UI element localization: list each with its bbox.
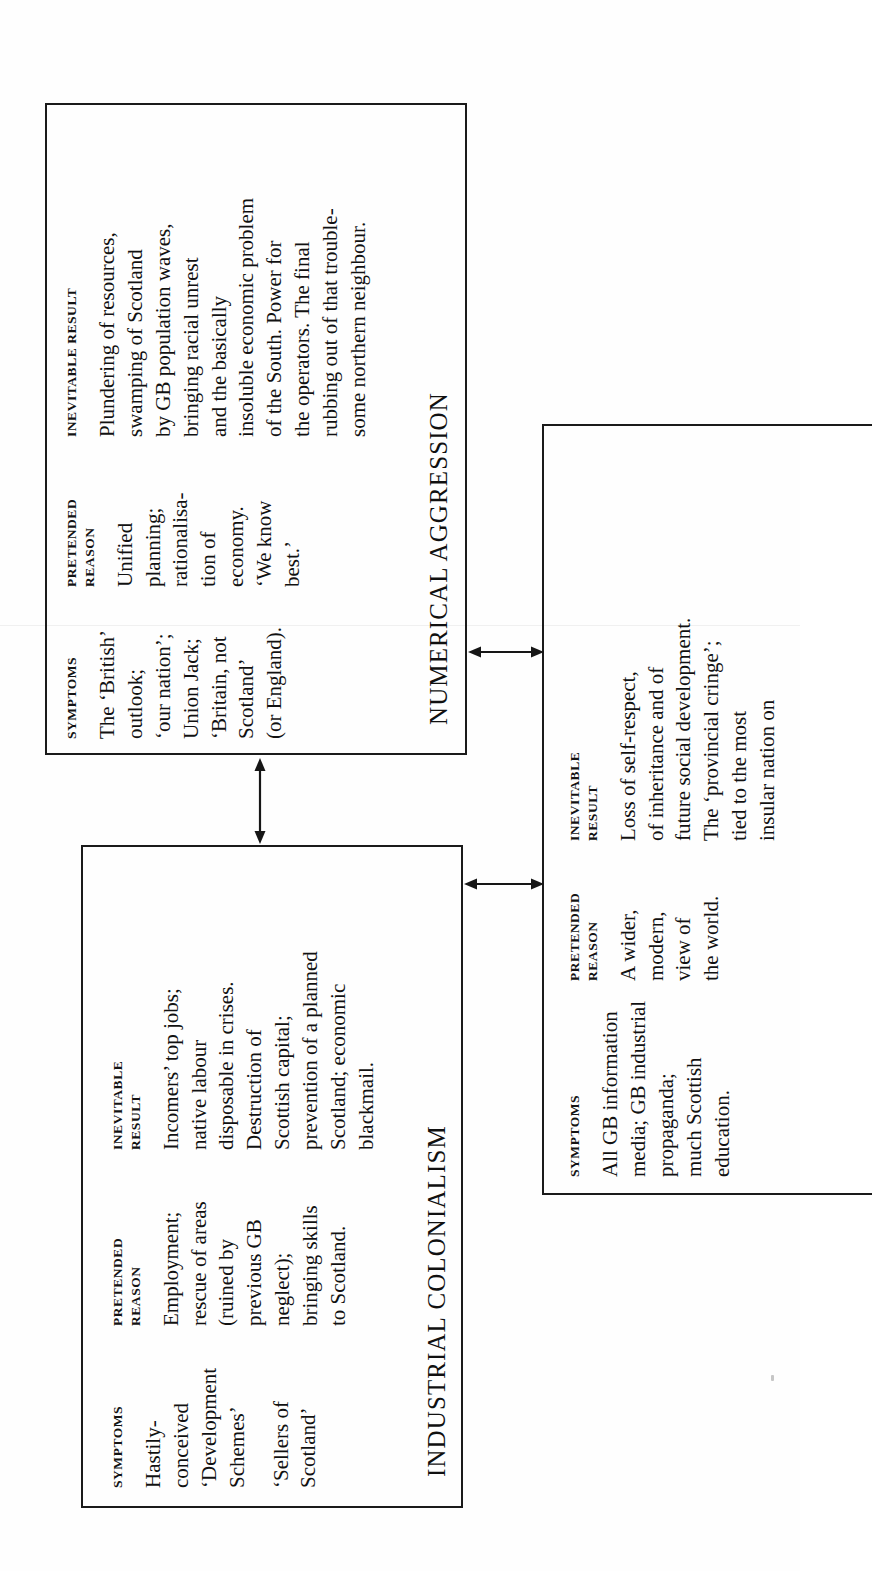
column-header-inevitable-result: INEVITABLE RESULT bbox=[63, 137, 81, 437]
column-symptoms: SYMPTOMS Hastily- conceived ‘Development… bbox=[109, 1326, 323, 1488]
column-header-pretended-reason: PRETENDED REASON bbox=[566, 841, 602, 981]
column-header-pretended-reason: PRETENDED REASON bbox=[109, 1150, 145, 1326]
column-pretended-reason: PRETENDED REASON Employment; rescue of a… bbox=[109, 1150, 353, 1326]
box-numerical-aggression: SYMPTOMS The ‘British’ outlook; ‘our nat… bbox=[45, 103, 467, 755]
column-symptoms: SYMPTOMS All GB information media; GB in… bbox=[566, 981, 736, 1177]
scan-speck bbox=[771, 1375, 774, 1381]
column-header-symptoms: SYMPTOMS bbox=[566, 981, 584, 1177]
connector-middle-to-right bbox=[464, 872, 544, 896]
connector-top-to-right bbox=[468, 640, 544, 664]
column-pretended-reason: PRETENDED REASON A wider, modern, view o… bbox=[566, 841, 726, 981]
column-body-symptoms: The ‘British’ outlook; ‘our nation’; Uni… bbox=[94, 587, 289, 739]
column-inevitable-result: INEVITABLE RESULT Incomers’ top jobs; na… bbox=[109, 880, 381, 1150]
column-body-inevitable-result: Loss of self-respect, of inheritance and… bbox=[615, 541, 783, 841]
column-pretended-reason: PRETENDED REASON Unified planning; ratio… bbox=[63, 437, 307, 587]
box-cultural-colonialism: SYMPTOMS All GB information media; GB in… bbox=[542, 424, 872, 1195]
column-body-symptoms: Hastily- conceived ‘Development Schemes’ bbox=[140, 1326, 252, 1488]
box-numerical-aggression-content: SYMPTOMS The ‘British’ outlook; ‘our nat… bbox=[47, 105, 469, 757]
column-inevitable-result: INEVITABLE RESULT Plundering of resource… bbox=[63, 137, 373, 437]
column-body-inevitable-result: Incomers’ top jobs; native labour dispos… bbox=[158, 880, 381, 1150]
column-body-pretended-reason: A wider, modern, view of the world. bbox=[615, 841, 727, 981]
column-body-pretended-reason: Employment; rescue of areas (ruined by p… bbox=[158, 1150, 353, 1326]
column-inevitable-result: INEVITABLE RESULT Loss of self-respect, … bbox=[566, 541, 782, 841]
box-industrial-colonialism: SYMPTOMS Hastily- conceived ‘Development… bbox=[81, 845, 463, 1508]
column-body-inevitable-result: Plundering of resources, swamping of Sco… bbox=[94, 137, 373, 437]
column-header-symptoms: SYMPTOMS bbox=[63, 587, 81, 739]
column-body-symptoms-secondary: ‘Sellers of Scotland’ bbox=[268, 1326, 324, 1488]
column-body-symptoms: All GB information media; GB industrial … bbox=[597, 981, 737, 1177]
box-title-industrial-colonialism: INDUSTRIAL COLONIALISM bbox=[423, 1125, 451, 1477]
box-industrial-colonialism-content: SYMPTOMS Hastily- conceived ‘Development… bbox=[83, 847, 465, 1510]
box-cultural-colonialism-content: SYMPTOMS All GB information media; GB in… bbox=[544, 426, 874, 1197]
column-body-pretended-reason: Unified planning; rationalisa- tion of e… bbox=[112, 437, 307, 587]
box-title-numerical-aggression: NUMERICAL AGGRESSION bbox=[425, 392, 453, 725]
column-header-inevitable-result: INEVITABLE RESULT bbox=[109, 880, 145, 1150]
column-header-pretended-reason: PRETENDED REASON bbox=[63, 437, 99, 587]
connector-top-to-middle bbox=[248, 758, 272, 844]
column-header-symptoms: SYMPTOMS bbox=[109, 1326, 127, 1488]
column-header-inevitable-result: INEVITABLE RESULT bbox=[566, 541, 602, 841]
column-symptoms: SYMPTOMS The ‘British’ outlook; ‘our nat… bbox=[63, 587, 289, 739]
